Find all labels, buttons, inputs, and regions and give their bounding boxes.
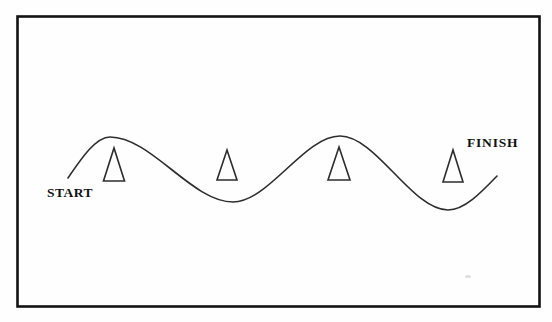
cone-triangle-4 (443, 150, 463, 182)
slalom-path-curve (68, 136, 497, 210)
start-label: START (47, 186, 93, 200)
cone-group (104, 147, 464, 182)
cone-triangle-3 (328, 147, 350, 180)
course-boundary-border (18, 17, 540, 307)
scan-speck-artifact (465, 275, 471, 278)
finish-label: FINISH (467, 136, 518, 150)
cone-triangle-1 (104, 148, 125, 181)
cone-triangle-2 (217, 150, 237, 180)
slalom-course-figure: START FINISH (0, 0, 552, 322)
course-diagram (0, 0, 552, 322)
